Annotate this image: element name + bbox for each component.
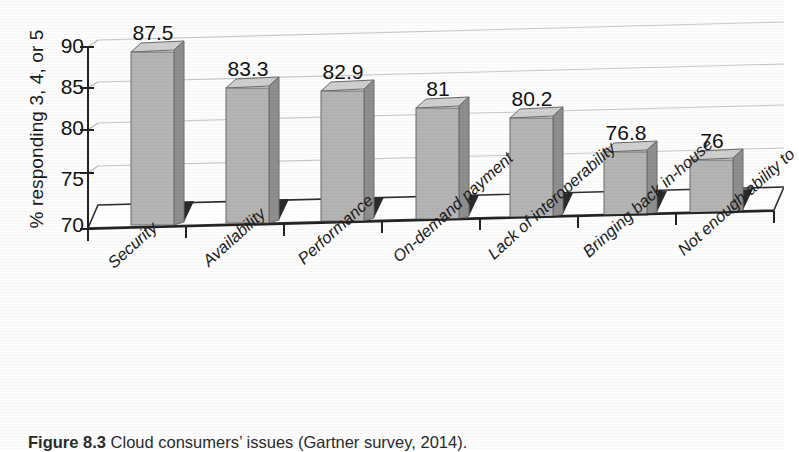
- value-label-security: 87.5: [119, 22, 187, 43]
- figure-caption: Figure 8.3 Cloud consumers’ issues (Gart…: [28, 433, 467, 452]
- bar-front: [131, 52, 174, 225]
- value-label-performance: 82.9: [309, 61, 377, 82]
- depth-connectors: [88, 40, 98, 173]
- y-axis: [80, 47, 94, 229]
- bar-side: [269, 77, 279, 223]
- bar-front: [226, 88, 269, 223]
- gridline-90: [98, 22, 784, 40]
- figure-caption-number: Figure 8.3: [28, 433, 106, 451]
- value-label-availability: 83.3: [214, 58, 282, 79]
- bar-side: [174, 41, 184, 225]
- bar-availability: [226, 77, 289, 223]
- figure-caption-text: Cloud consumers’ issues (Gartner survey,…: [111, 433, 468, 451]
- value-label-bringing-back-in-house: 76.8: [592, 122, 660, 143]
- value-label-lack-of-interoperability: 80.2: [498, 88, 566, 109]
- bar-security: [131, 41, 194, 225]
- value-label-on-demand-payment: 81: [404, 78, 472, 99]
